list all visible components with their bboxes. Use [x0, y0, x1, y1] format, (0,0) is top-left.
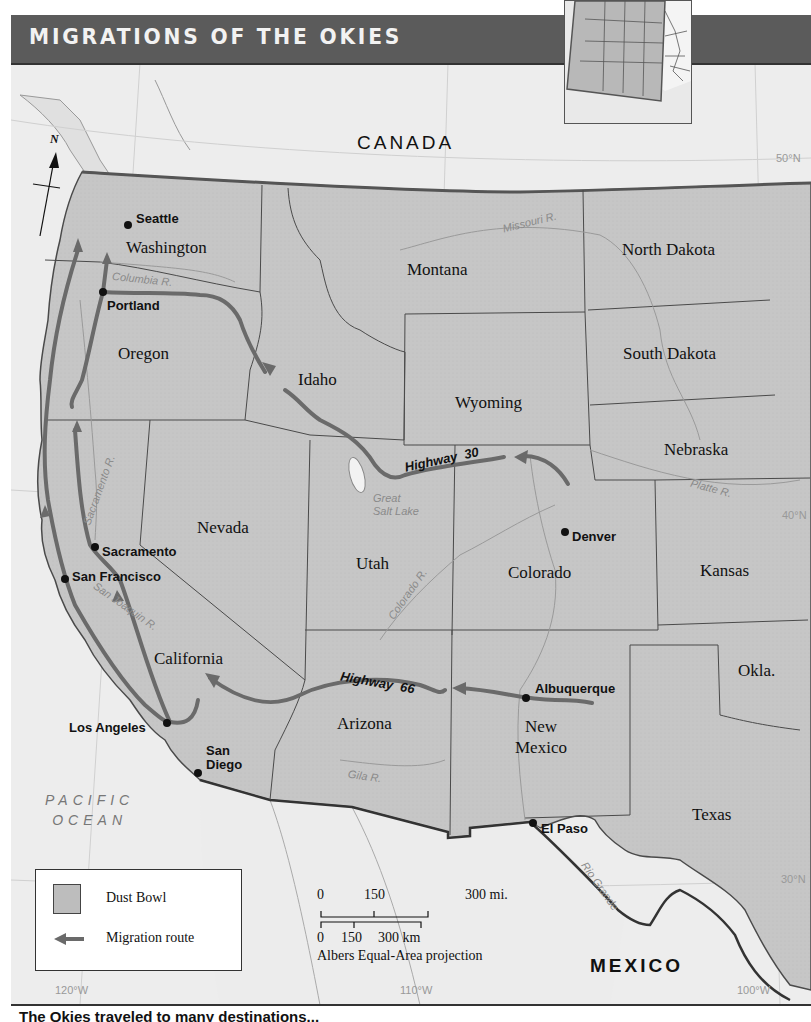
state-label-colorado: Colorado	[508, 563, 571, 583]
city-label-sacramento: Sacramento	[102, 544, 176, 559]
grid-label-100w: 100°W	[737, 984, 770, 996]
map-caption: The Okies traveled to many destinations.…	[11, 1004, 811, 1022]
scale-mi-300: 300 mi.	[465, 887, 508, 903]
state-label-montana: Montana	[407, 260, 467, 280]
caption-text: The Okies traveled to many destinations.…	[19, 1008, 319, 1022]
city-label-los-angeles: Los Angeles	[69, 720, 146, 735]
state-label-north-dakota: North Dakota	[622, 240, 715, 260]
grid-label-30n: 30°N	[781, 873, 806, 885]
state-label-oklahoma: Okla.	[738, 661, 775, 681]
city-label-san-francisco: San Francisco	[72, 569, 161, 584]
map-title: MIGRATIONS OF THE OKIES	[29, 24, 402, 49]
city-label-el-paso: El Paso	[541, 821, 588, 836]
scale-mi-150: 150	[364, 887, 385, 903]
migration-arrow-icon	[54, 933, 84, 945]
city-label-san-diego: San Diego	[206, 744, 242, 772]
scale-km-0: 0	[317, 930, 324, 946]
san-diego-line-1: San	[206, 744, 242, 758]
lake-label-great-salt-lake: Great Salt Lake	[373, 492, 419, 518]
state-label-utah: Utah	[356, 554, 389, 574]
state-label-california: California	[154, 649, 223, 669]
grid-label-120w: 120°W	[55, 984, 88, 996]
dust-bowl-swatch-icon	[53, 884, 81, 914]
new-mexico-line-1: New	[515, 716, 567, 737]
state-label-nebraska: Nebraska	[664, 440, 728, 460]
north-label: N	[50, 132, 59, 147]
lake-line-1: Great	[373, 492, 419, 505]
ocean-line-1: PACIFIC	[45, 790, 134, 810]
state-label-washington: Washington	[126, 238, 207, 258]
ocean-line-2: OCEAN	[45, 810, 134, 830]
state-label-oregon: Oregon	[118, 344, 169, 364]
city-label-albuquerque: Albuquerque	[535, 681, 615, 696]
state-label-wyoming: Wyoming	[455, 393, 522, 413]
highway-30-number: 30	[463, 444, 480, 462]
country-label-mexico: MEXICO	[590, 955, 683, 977]
locator-inset-map	[564, 0, 692, 124]
city-label-seattle: Seattle	[136, 211, 179, 226]
projection-note: Albers Equal-Area projection	[317, 948, 483, 964]
city-label-portland: Portland	[107, 298, 160, 313]
state-label-arizona: Arizona	[337, 714, 392, 734]
state-label-texas: Texas	[692, 805, 731, 825]
state-label-nevada: Nevada	[197, 518, 249, 538]
us-locator-icon	[565, 1, 691, 123]
grid-label-110w: 110°W	[400, 984, 432, 996]
lake-line-2: Salt Lake	[373, 505, 419, 518]
country-label-canada: CANADA	[357, 132, 454, 154]
north-arrow: N	[30, 140, 70, 240]
grid-label-40n: 40°N	[782, 509, 807, 521]
highway-66-number: 66	[399, 679, 416, 696]
scale-mi-0: 0	[317, 887, 324, 903]
ocean-label-pacific: PACIFIC OCEAN	[45, 790, 134, 830]
compass-icon	[30, 140, 70, 240]
legend-label-migration-route: Migration route	[106, 930, 194, 946]
map-legend: Dust Bowl Migration route	[35, 869, 242, 971]
scale-km-150: 150	[341, 930, 362, 946]
state-label-new-mexico: New Mexico	[515, 716, 567, 758]
state-label-south-dakota: South Dakota	[623, 344, 716, 364]
state-label-kansas: Kansas	[700, 561, 749, 581]
san-diego-line-2: Diego	[206, 758, 242, 772]
legend-label-dust-bowl: Dust Bowl	[106, 890, 166, 906]
city-label-denver: Denver	[572, 529, 616, 544]
state-label-idaho: Idaho	[298, 370, 337, 390]
new-mexico-line-2: Mexico	[515, 737, 567, 758]
scale-km-300: 300 km	[378, 930, 420, 946]
grid-label-50n: 50°N	[776, 152, 801, 164]
